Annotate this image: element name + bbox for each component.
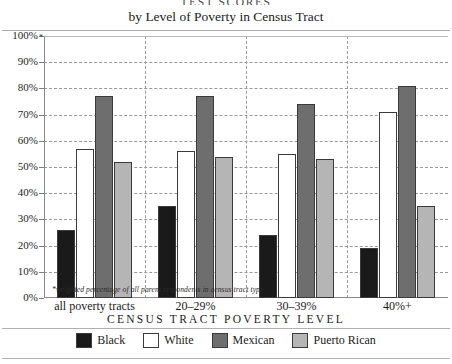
legend-item: Mexican — [212, 333, 275, 348]
y-axis-tick-label: 70% — [0, 108, 38, 120]
legend-item-label: White — [164, 333, 193, 348]
bar — [215, 157, 233, 298]
bar — [95, 96, 113, 298]
legend-item: Puerto Rican — [292, 333, 375, 348]
bar — [360, 248, 378, 298]
x-axis-tick-label: all poverty tracts — [44, 299, 145, 314]
legend-top-rule — [2, 328, 450, 329]
chart-main-title: TEST SCORES — [0, 0, 452, 5]
chart-figure: TEST SCORES by Level of Poverty in Censu… — [0, 0, 452, 364]
x-axis-tick-label: 40%+ — [347, 299, 448, 314]
bar — [417, 206, 435, 298]
bar — [297, 104, 315, 298]
bar — [278, 154, 296, 298]
y-axis-tick-label: 80% — [0, 81, 38, 93]
chart-footnote: *weighted percentage of all parent respo… — [52, 285, 263, 294]
bar — [316, 159, 334, 298]
bar — [196, 96, 214, 298]
x-axis-tick-label: 30–39% — [246, 299, 347, 314]
y-axis-tick-label: 50% — [0, 160, 38, 172]
x-axis-tick-label: 20–29% — [145, 299, 246, 314]
legend-bottom-rule — [2, 358, 450, 359]
y-axis-tick-label: 60% — [0, 134, 38, 146]
legend-swatch-icon — [143, 333, 159, 348]
bar — [398, 86, 416, 298]
legend-item: White — [143, 333, 193, 348]
y-axis-tick-label: 0% — [0, 291, 38, 303]
legend-swatch-icon — [76, 333, 92, 348]
axis-asterisk: * — [39, 33, 43, 42]
legend-item-label: Mexican — [233, 333, 275, 348]
legend-item: Black — [76, 333, 125, 348]
y-axis-tick-label: 90% — [0, 55, 38, 67]
y-axis-tick-label: 30% — [0, 212, 38, 224]
top-divider-rule — [2, 30, 450, 31]
chart-subtitle: by Level of Poverty in Census Tract — [0, 9, 452, 25]
y-axis-tick-label: 40% — [0, 186, 38, 198]
legend-swatch-icon — [212, 333, 228, 348]
y-axis-tick-label: 20% — [0, 239, 38, 251]
bar — [114, 162, 132, 298]
legend: BlackWhiteMexicanPuerto Rican — [0, 333, 452, 348]
y-axis-tick-label: 10% — [0, 265, 38, 277]
legend-swatch-icon — [292, 333, 308, 348]
bar — [76, 149, 94, 298]
legend-item-label: Black — [97, 333, 125, 348]
y-axis-tick-label: 100% — [0, 29, 38, 41]
bar — [177, 151, 195, 298]
legend-item-label: Puerto Rican — [313, 333, 375, 348]
bar — [379, 112, 397, 298]
legend-title: CENSUS TRACT POVERTY LEVEL — [0, 313, 452, 325]
